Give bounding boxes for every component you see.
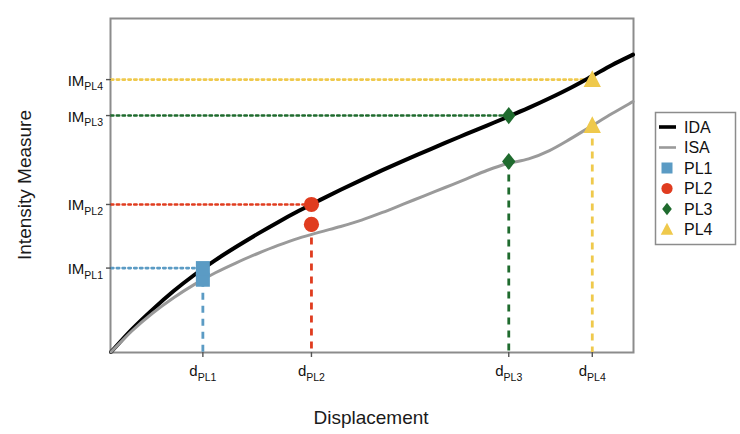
chart-figure: IMPL1IMPL2IMPL3IMPL4 dPL1dPL2dPL3dPL4 Di…	[0, 0, 740, 434]
legend-label-pl3: PL3	[684, 201, 713, 218]
legend-label-isa: ISA	[684, 139, 710, 156]
legend-label-pl4: PL4	[684, 221, 713, 238]
legend-label-pl2: PL2	[684, 180, 713, 197]
legend: IDAISAPL1PL2PL3PL4	[656, 113, 736, 245]
marker-pl2-ida	[304, 197, 319, 212]
legend-label-pl1: PL1	[684, 160, 713, 177]
marker-pl1-ida	[196, 261, 210, 275]
legend-label-ida: IDA	[684, 119, 711, 136]
marker-pl2-isa	[304, 217, 319, 232]
legend-swatch-pl1	[662, 163, 673, 174]
legend-swatch-pl2	[661, 183, 672, 194]
x-axis-title: Displacement	[313, 407, 429, 428]
plot-frame	[111, 19, 634, 353]
y-axis-title: Intensity Measure	[14, 110, 35, 260]
chart-svg: IMPL1IMPL2IMPL3IMPL4 dPL1dPL2dPL3dPL4 Di…	[0, 0, 740, 434]
